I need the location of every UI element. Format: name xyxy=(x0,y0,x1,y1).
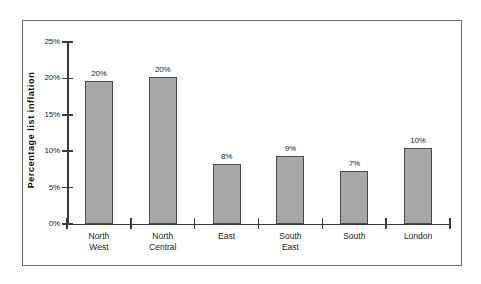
bar-north-west[interactable] xyxy=(85,81,113,224)
x-tick-mark xyxy=(258,218,260,229)
y-tick-mark xyxy=(62,41,73,43)
x-category-label: South xyxy=(320,231,388,242)
bar-value-label: 10% xyxy=(398,136,438,145)
bar-value-label: 20% xyxy=(143,65,183,74)
y-tick-mark xyxy=(62,150,73,152)
x-category-label: North Central xyxy=(129,231,197,252)
y-tick-mark xyxy=(62,78,73,80)
y-axis-title-label: Percentage list inflation xyxy=(26,72,36,189)
bar-value-label: 20% xyxy=(79,69,119,78)
bar-south-east[interactable] xyxy=(276,156,304,224)
x-category-label: South East xyxy=(256,231,324,252)
bar-london[interactable] xyxy=(404,148,432,224)
bar-value-label: 8% xyxy=(207,152,247,161)
chart-page: Percentage list inflation 0%5%10%15%20%2… xyxy=(0,0,481,284)
bar-value-label: 9% xyxy=(270,144,310,153)
x-tick-mark xyxy=(66,218,68,229)
y-axis-title: Percentage list inflation xyxy=(24,40,38,220)
x-tick-mark xyxy=(130,218,132,229)
bar-south[interactable] xyxy=(340,171,368,224)
x-category-label: North West xyxy=(65,231,133,252)
x-tick-mark xyxy=(194,218,196,229)
bar-value-label: 7% xyxy=(334,159,374,168)
y-axis-line xyxy=(67,42,69,225)
bar-north-central[interactable] xyxy=(149,77,177,224)
bar-east[interactable] xyxy=(213,164,241,224)
y-tick-mark xyxy=(62,187,73,189)
y-tick-label: 15% xyxy=(36,110,60,119)
x-tick-mark xyxy=(449,218,451,229)
y-tick-label: 20% xyxy=(36,73,60,82)
x-tick-mark xyxy=(322,218,324,229)
y-tick-label: 25% xyxy=(36,37,60,46)
x-category-label: East xyxy=(193,231,261,242)
y-tick-mark xyxy=(62,114,73,116)
y-tick-label: 10% xyxy=(36,146,60,155)
bar-chart: Percentage list inflation 0%5%10%15%20%2… xyxy=(0,0,481,284)
y-tick-label: 0% xyxy=(36,219,60,228)
x-category-label: London xyxy=(384,231,452,242)
y-tick-label: 5% xyxy=(36,183,60,192)
x-tick-mark xyxy=(385,218,387,229)
